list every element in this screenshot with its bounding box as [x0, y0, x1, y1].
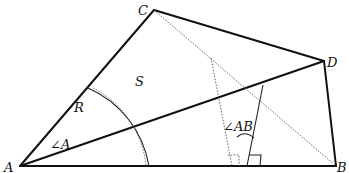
sector-arc — [88, 88, 149, 166]
edge-cd — [154, 10, 324, 61]
point-label-d: D — [326, 55, 338, 70]
point-label-a: A — [3, 160, 13, 173]
label-radius: R — [73, 100, 84, 115]
label-area: S — [135, 74, 144, 89]
dotted-projection — [211, 58, 232, 166]
label-angle-a: ∠A — [50, 137, 70, 152]
label-angle-ab: ∠AB — [223, 119, 253, 134]
angle-ab-arc — [237, 134, 254, 138]
edge-db — [324, 61, 336, 166]
dotted-right-angle-mark — [228, 155, 239, 166]
right-angle-mark — [249, 155, 261, 166]
geometry-diagram: C D A B R S ∠A ∠AB — [0, 0, 349, 173]
dotted-sector-arc — [93, 88, 146, 166]
point-label-b: B — [336, 160, 347, 173]
point-label-c: C — [138, 3, 148, 18]
